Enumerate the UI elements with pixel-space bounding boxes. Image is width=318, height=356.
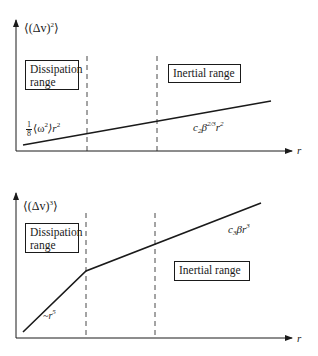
bottom-inertial-range-box: Inertial range [174,261,250,281]
formula-r-exp: 3 [246,222,250,230]
top-x-axis-label: r [297,145,301,156]
top-dissipation-line2: range [30,76,74,89]
formula-beta-exp: 2/3 [207,120,216,128]
top-y-label-close: ⟩ [54,21,59,35]
top-inertial-label: Inertial range [173,67,235,79]
fraction-denominator: 8 [26,130,32,138]
bottom-y-label-close: ⟩ [53,199,58,213]
formula-omega: ⟨ω [33,122,45,134]
top-left-formula: 18⟨ω2⟩r2 [26,121,60,138]
bottom-y-axis-label: ⟨(Δv)3⟩ [23,200,58,212]
bottom-y-label-text: ⟨(Δv) [23,199,49,213]
formula-r-exp: 5 [52,308,56,316]
formula-r-exp: 2 [57,121,61,129]
top-dissipation-line1: Dissipation [30,63,74,76]
top-dissipation-range-box: Dissipation range [25,60,79,90]
bottom-inertial-label: Inertial range [179,264,241,276]
formula-r: ⟩r [48,122,57,134]
bottom-dissipation-range-box: Dissipation range [25,223,79,253]
bottom-dissipation-line1: Dissipation [30,226,74,239]
bottom-dissipation-line2: range [30,239,74,252]
bottom-left-formula: ~r5 [43,311,56,321]
formula-r-exp: 2 [220,120,224,128]
bottom-x-axis-label: r [297,333,301,344]
top-right-formula: c2β2/3r2 [193,122,224,133]
formula-r: ~r [43,310,52,321]
one-eighth-fraction: 18 [26,121,32,138]
top-y-label-text: ⟨(Δv) [24,21,50,35]
bottom-chart [16,193,292,338]
diagram-canvas [0,0,318,356]
bottom-right-formula: c3βr3 [228,224,250,235]
top-inertial-range-box: Inertial range [168,64,241,83]
top-y-axis-label: ⟨(Δv)2⟩ [24,22,59,34]
top-curve [23,101,271,145]
